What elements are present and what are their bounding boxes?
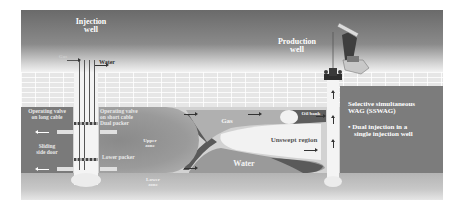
sliding-side-door-label: Sliding side door (29, 144, 65, 156)
water-inlet-label: Water (97, 59, 117, 65)
water-zone-label: Water (227, 160, 261, 168)
lower-packer-label: Lower packer (102, 155, 146, 161)
gas-inlet-label: Gas (55, 54, 71, 59)
lower-zone-label: Lower zone (143, 177, 163, 188)
valve-short-cable-label: Operating valve on short cable Dual pack… (100, 109, 150, 126)
oil-bank-label: Oil bank (299, 111, 323, 116)
unswept-region-label: Unswept region (259, 137, 329, 144)
injection-well-label: Injection well (61, 18, 121, 35)
sswag-diagram: Injection well Gas Water Production well… (21, 10, 443, 200)
sswag-heading: Selective simultaneous WAG (SSWAG) (348, 101, 440, 116)
upper-zone-label: Upper zone (140, 138, 160, 149)
gas-zone-label: Gas (215, 118, 239, 125)
production-well-label: Production well (269, 38, 325, 55)
sswag-bullet: • Dual injection in a single injection w… (348, 124, 440, 139)
valve-long-cable-label: Operating valve on long cable (21, 109, 73, 121)
